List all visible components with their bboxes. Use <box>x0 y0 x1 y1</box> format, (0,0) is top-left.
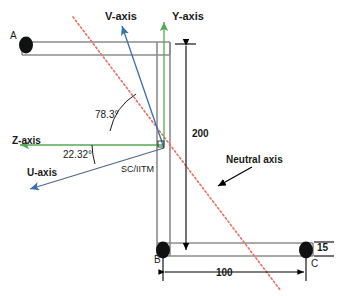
node-label-b: B <box>154 255 161 265</box>
angle-label-78: 78.3° <box>95 110 118 120</box>
neutral-axis-leader <box>218 167 252 186</box>
v-axis-label: V-axis <box>105 11 137 22</box>
diagram-vector-layer <box>0 0 341 296</box>
node-label-c: C <box>311 259 318 269</box>
neutral-axis-label: Neutral axis <box>226 155 283 165</box>
dimension-200 <box>175 44 196 250</box>
node-markers <box>19 37 313 259</box>
y-axis-label: Y-axis <box>172 11 204 22</box>
shear-centre-label: SC/IITM <box>121 165 154 174</box>
diagram-canvas: V-axis Y-axis Z-axis U-axis A B C 78.3° … <box>0 0 341 296</box>
dimension-label-100: 100 <box>216 268 233 278</box>
u-axis-label: U-axis <box>27 168 57 178</box>
dimension-label-15: 15 <box>317 243 328 253</box>
angle-arc-22 <box>92 145 95 164</box>
node-label-a: A <box>10 31 17 41</box>
dimension-label-200: 200 <box>192 129 209 139</box>
dimension-100 <box>163 258 306 281</box>
z-axis-label: Z-axis <box>12 136 41 146</box>
angle-label-22: 22.32° <box>63 150 92 160</box>
